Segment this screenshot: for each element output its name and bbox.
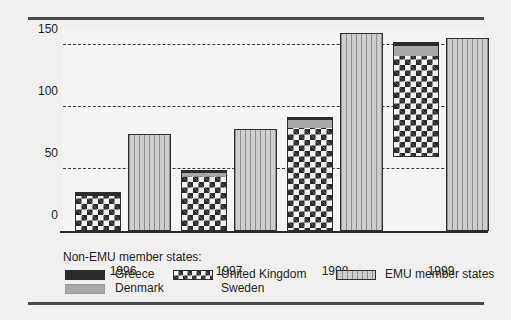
y-tick-100: 100 bbox=[24, 84, 58, 98]
bar-1996-emu[interactable] bbox=[128, 134, 171, 231]
y-axis-labels: 150 100 50 0 bbox=[20, 30, 58, 231]
segment-1999-greece bbox=[394, 43, 438, 46]
bar-group-1997 bbox=[181, 30, 277, 231]
segment-1999-denmark bbox=[394, 45, 438, 56]
top-divider-rule bbox=[28, 17, 484, 20]
bar-group-1996 bbox=[75, 30, 171, 231]
legend-label-united-kingdom: United Kingdom bbox=[221, 267, 306, 281]
y-tick-150: 150 bbox=[24, 22, 58, 36]
legend-swatch-denmark bbox=[65, 284, 105, 294]
legend-label-greece: Greece bbox=[115, 267, 154, 281]
bar-1998-non-emu[interactable] bbox=[287, 117, 333, 231]
segment-1998-denmark bbox=[288, 119, 332, 128]
bar-group-1998 bbox=[287, 30, 383, 231]
x-axis-line bbox=[60, 231, 488, 233]
segment-1998-greece bbox=[288, 118, 332, 120]
bar-1997-emu[interactable] bbox=[234, 129, 277, 231]
bar-1999-emu[interactable] bbox=[446, 38, 489, 231]
segment-1997-greece bbox=[182, 171, 226, 173]
bar-1997-non-emu[interactable] bbox=[181, 170, 227, 231]
bar-1999-non-emu[interactable] bbox=[393, 42, 439, 157]
legend-swatch-united-kingdom bbox=[173, 270, 213, 280]
plot-area: 1996 1997 1998 1999 bbox=[63, 30, 484, 231]
y-tick-0: 0 bbox=[24, 208, 58, 222]
bar-1996-non-emu[interactable] bbox=[75, 192, 121, 231]
legend-label-denmark: Denmark bbox=[115, 281, 164, 295]
bar-group-1999 bbox=[393, 30, 489, 231]
legend-swatch-emu bbox=[336, 270, 376, 280]
legend-label-sweden: Sweden bbox=[221, 281, 264, 295]
chart-legend: Non-EMU member states: Greece Denmark Un… bbox=[63, 250, 483, 298]
plot-inner bbox=[63, 30, 484, 231]
bar-1998-emu[interactable] bbox=[340, 33, 383, 231]
segment-1996-greece bbox=[76, 193, 120, 196]
legend-title: Non-EMU member states: bbox=[63, 250, 202, 264]
y-tick-50: 50 bbox=[24, 146, 58, 160]
legend-label-emu: EMU member states bbox=[385, 267, 494, 281]
bottom-divider-rule bbox=[28, 302, 484, 305]
chart-page: 150 100 50 0 bbox=[0, 0, 511, 320]
legend-swatch-greece bbox=[65, 270, 105, 280]
